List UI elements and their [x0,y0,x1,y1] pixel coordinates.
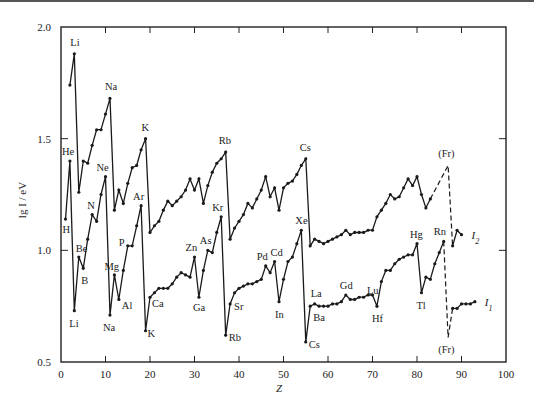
data-point [104,113,107,116]
data-point [411,184,414,187]
data-point [237,220,240,223]
data-point [424,276,427,279]
data-point [473,300,476,303]
data-point [407,253,410,256]
data-point [362,231,365,234]
element-label: He [62,146,75,157]
element-label: Rn [434,226,447,237]
data-point [246,202,249,205]
x-tick-label: 50 [278,368,290,380]
data-point [362,296,365,299]
data-point [273,186,276,189]
data-point [304,157,307,160]
data-point [251,282,254,285]
element-label: Hf [372,313,384,324]
data-point [366,229,369,232]
data-point [469,302,472,305]
data-point [335,235,338,238]
series-dashed-extrapolation [444,241,453,337]
data-point [277,209,280,212]
x-axis-ticks: 0102030405060708090100 [58,27,515,380]
data-point [349,233,352,236]
data-point [251,206,254,209]
data-point [206,249,209,252]
data-point [455,307,458,310]
element-label: Lu [367,285,379,296]
data-point [202,202,205,205]
data-point [77,255,80,258]
data-point [300,164,303,167]
data-point [282,186,285,189]
legend-subscript: 2 [475,236,479,245]
data-point [68,159,71,162]
data-point [269,271,272,274]
data-point [402,255,405,258]
ionization-energy-chart: 0102030405060708090100 0.51.01.52.0 LiNa… [0,0,534,415]
data-point [215,231,218,234]
data-point [233,291,236,294]
data-point [68,83,71,86]
data-point [349,298,352,301]
data-point [95,128,98,131]
data-point [229,302,232,305]
data-point [389,193,392,196]
data-point [153,291,156,294]
element-label: Cs [309,339,320,350]
data-point [358,296,361,299]
data-point [206,184,209,187]
element-label: (Fr) [438,148,455,160]
data-point [157,287,160,290]
data-point [215,162,218,165]
data-point [73,309,76,312]
data-point [433,262,436,265]
data-point [95,220,98,223]
data-point [113,273,116,276]
data-point [237,287,240,290]
x-tick-label: 30 [189,368,201,380]
data-point [411,253,414,256]
data-point [398,195,401,198]
data-point [180,195,183,198]
x-tick-label: 70 [367,368,379,380]
data-point [451,244,454,247]
data-point [224,150,227,153]
data-point [233,226,236,229]
x-tick-label: 40 [234,368,246,380]
element-label: Ga [193,302,206,313]
data-point [429,278,432,281]
element-label: Ar [133,191,145,202]
x-tick-label: 90 [456,368,468,380]
data-point [122,202,125,205]
data-point [131,166,134,169]
data-point [188,276,191,279]
data-point [353,231,356,234]
data-point [229,238,232,241]
x-tick-label: 60 [323,368,335,380]
legend-i1: I1 [484,296,493,313]
data-point [295,242,298,245]
data-point [393,262,396,265]
data-point [375,305,378,308]
data-point [193,255,196,258]
data-point [202,269,205,272]
data-point [255,280,258,283]
data-point [464,302,467,305]
data-point [282,278,285,281]
data-point [295,173,298,176]
data-point [460,302,463,305]
element-label: Na [105,81,118,92]
legend-i2: I2 [471,229,480,246]
data-point [286,260,289,263]
element-label: Cs [300,142,311,153]
data-point [82,267,85,270]
data-point [197,177,200,180]
data-point [188,177,191,180]
data-point [358,231,361,234]
data-point [340,300,343,303]
data-point [171,204,174,207]
data-point [260,188,263,191]
data-point [300,229,303,232]
data-point [380,209,383,212]
data-point [166,200,169,203]
data-point [117,298,120,301]
